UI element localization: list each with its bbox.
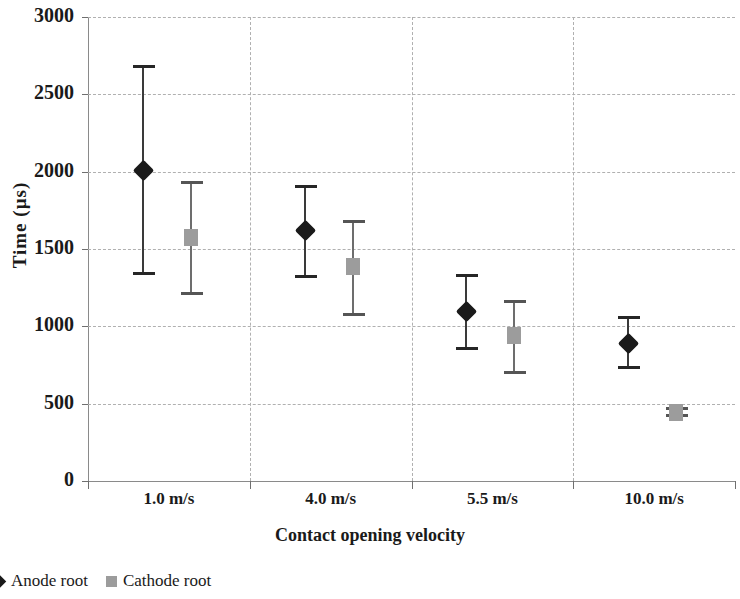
diamond-marker-icon bbox=[133, 160, 154, 181]
y-axis-tick-label: 3000 bbox=[8, 5, 74, 25]
error-bar-cap-upper bbox=[343, 220, 365, 223]
error-bar-cap-upper bbox=[181, 181, 203, 184]
error-bar-cap-lower bbox=[343, 313, 365, 316]
legend-item-cathode: Cathode root bbox=[88, 571, 211, 591]
square-marker-icon bbox=[106, 576, 117, 587]
error-bar-cap-upper bbox=[456, 274, 478, 277]
x-axis-tick bbox=[88, 481, 89, 489]
x-axis-title: Contact opening velocity bbox=[0, 525, 740, 546]
x-axis-tick-label: 4.0 m/s bbox=[250, 489, 412, 509]
error-bar-cap-upper bbox=[504, 300, 526, 303]
plot-area bbox=[88, 17, 735, 481]
y-axis-tick-label: 500 bbox=[8, 392, 74, 412]
x-axis-tick bbox=[735, 481, 736, 489]
legend-label-cathode: Cathode root bbox=[123, 571, 211, 591]
error-bar-cap-lower bbox=[504, 371, 526, 374]
error-bar-cap-upper bbox=[618, 316, 640, 319]
x-axis-tick-label: 5.5 m/s bbox=[412, 489, 574, 509]
error-bar-cap-lower bbox=[456, 347, 478, 350]
square-marker-icon bbox=[669, 404, 683, 421]
y-axis-tick-label: 2500 bbox=[8, 82, 74, 102]
legend-item-anode: Anode root bbox=[0, 571, 88, 591]
gridline bbox=[250, 17, 251, 481]
y-axis-tick-label: 1000 bbox=[8, 314, 74, 334]
square-marker-icon bbox=[184, 229, 198, 246]
error-bar-cap-upper bbox=[133, 65, 155, 68]
y-axis-tick-label: 2000 bbox=[8, 160, 74, 180]
x-axis-tick-label: 10.0 m/s bbox=[573, 489, 735, 509]
square-marker-icon bbox=[507, 327, 521, 344]
error-bar-cap-lower bbox=[133, 272, 155, 275]
gridline bbox=[573, 17, 574, 481]
error-bar-cap-upper bbox=[295, 185, 317, 188]
y-axis-tick-label: 0 bbox=[8, 469, 74, 489]
square-marker-icon bbox=[346, 258, 360, 275]
diamond-marker-icon bbox=[618, 332, 639, 353]
error-bar-cap-lower bbox=[181, 292, 203, 295]
x-axis-tick-label: 1.0 m/s bbox=[88, 489, 250, 509]
y-axis-tick-label: 1500 bbox=[8, 237, 74, 257]
error-bar-cap-lower bbox=[618, 366, 640, 369]
diamond-marker-icon bbox=[456, 301, 477, 322]
chart-legend: Anode root Cathode root bbox=[0, 566, 740, 596]
diamond-marker-icon bbox=[295, 220, 316, 241]
error-bar-cap-lower bbox=[295, 275, 317, 278]
x-axis-tick bbox=[250, 481, 251, 489]
legend-label-anode: Anode root bbox=[11, 571, 88, 591]
gridline bbox=[412, 17, 413, 481]
x-axis-tick bbox=[412, 481, 413, 489]
diamond-marker-icon bbox=[0, 573, 6, 589]
x-axis-tick bbox=[573, 481, 574, 489]
error-bar-chart: Time (µs) 050010001500200025003000 1.0 m… bbox=[0, 0, 740, 599]
